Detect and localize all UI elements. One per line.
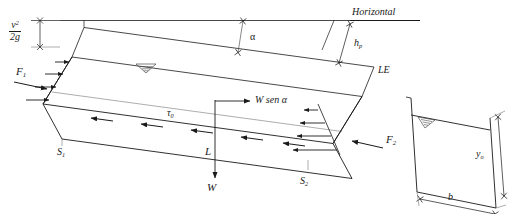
velocity-head-dimension-group bbox=[31, 21, 60, 48]
water-surface-symbol-main bbox=[136, 64, 156, 73]
force-2-label: F2 bbox=[386, 134, 396, 145]
weight-vector-group bbox=[215, 100, 250, 178]
length-label: L bbox=[205, 146, 211, 157]
shear-arrow-4 bbox=[241, 137, 263, 140]
left-pressure-triangle-hypotenuse bbox=[43, 57, 72, 104]
cross-section-water-surface bbox=[411, 115, 490, 130]
force-1-arrow bbox=[14, 82, 47, 89]
cross-section-bed bbox=[417, 192, 496, 208]
far-bank-water-surface-line bbox=[52, 92, 342, 132]
force-1-label: F1 bbox=[16, 66, 26, 77]
energy-line-label: LE bbox=[378, 65, 390, 75]
right-pressure-outer-edge bbox=[318, 104, 340, 155]
channel-bed-line bbox=[43, 104, 333, 144]
shear-arrow-1 bbox=[91, 118, 113, 121]
width-dimension-line bbox=[420, 199, 495, 214]
depth-label: yo bbox=[476, 149, 484, 159]
depth-lower-extension bbox=[496, 205, 506, 208]
width-label: b bbox=[448, 192, 453, 202]
cross-section-left-wall bbox=[411, 98, 417, 192]
alpha-vertical-leader bbox=[238, 21, 243, 53]
depth-upper-extension bbox=[490, 111, 505, 118]
left-section-upper-edge bbox=[72, 28, 84, 58]
shear-stress-label: τ0 bbox=[167, 108, 174, 118]
head-loss-dimension-line bbox=[339, 24, 350, 63]
pressure-distribution-left bbox=[26, 57, 72, 104]
force-1-arrow-group bbox=[14, 82, 47, 89]
shear-arrow-3 bbox=[191, 130, 213, 133]
weight-label: W bbox=[207, 182, 216, 193]
energy-line bbox=[84, 28, 374, 68]
cross-section-group bbox=[406, 97, 506, 214]
section-2-label: S2 bbox=[300, 176, 308, 186]
width-left-extension bbox=[417, 192, 419, 206]
alpha-angle-group bbox=[238, 21, 243, 53]
section-1-label: S1 bbox=[57, 147, 65, 157]
right-section-bottom-edge bbox=[333, 144, 352, 179]
left-section-bottom-edge bbox=[43, 104, 62, 139]
head-loss-dimension-group bbox=[339, 24, 350, 63]
head-loss-label: hp bbox=[354, 38, 362, 48]
right-section-upper-edge bbox=[362, 67, 374, 97]
force-2-arrow bbox=[352, 141, 383, 148]
weight-sin-alpha-label: W sen α bbox=[255, 95, 287, 105]
horizontal-label: Horizontal bbox=[352, 7, 395, 18]
length-dimension-group bbox=[62, 139, 308, 160]
shear-arrow-2 bbox=[141, 124, 163, 127]
right-pressure-triangle-hypotenuse bbox=[333, 97, 362, 144]
velocity-head-label: v2 2g bbox=[9, 20, 21, 42]
top-right-vertical-edge bbox=[322, 21, 334, 51]
length-dimension-line bbox=[62, 139, 308, 160]
water-surface-line bbox=[72, 57, 362, 97]
force-2-arrow-group bbox=[352, 141, 383, 148]
cross-section-right-wall bbox=[490, 118, 496, 208]
shear-arrow-5 bbox=[283, 143, 305, 146]
channel-flow-diagram: v2 2g Horizontal α hp LE F1 F2 τ0 W sen … bbox=[0, 0, 508, 214]
prism-far-top-edge bbox=[84, 28, 322, 51]
cross-section-left-lip bbox=[406, 97, 411, 98]
depth-dimension-line bbox=[498, 117, 504, 196]
left-pressure-base bbox=[26, 87, 35, 100]
alpha-angle-label: α bbox=[250, 32, 255, 42]
